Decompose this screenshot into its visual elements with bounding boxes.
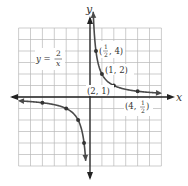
annotation-2-1: (2, 1): [86, 85, 114, 96]
data-point: [40, 101, 44, 105]
down-arrow-icon: [87, 172, 93, 180]
annotation-fraction-num: 1: [104, 43, 108, 50]
annotation-fraction-den: 2: [141, 107, 145, 114]
annotation-text: (: [99, 46, 102, 56]
data-point: [76, 118, 80, 122]
hyperbola-chart: x y y = 2 x ( 1 2 , 4) (1, 2) (2, 1) (4,…: [0, 0, 188, 186]
left-arrow-icon: [10, 94, 18, 100]
right-arrow-icon: [167, 94, 175, 100]
annotation-text: , 4): [109, 46, 123, 56]
annotation-fraction-den: 2: [104, 51, 108, 58]
annotation-text: (1, 2): [105, 65, 128, 75]
annotation-text: ): [146, 101, 149, 111]
y-axis: [87, 16, 93, 180]
y-axis-label: y: [85, 3, 93, 16]
data-point: [82, 141, 86, 145]
data-point: [136, 89, 140, 93]
equation-numerator: 2: [56, 49, 61, 58]
hyperbola-branch: [20, 101, 86, 161]
annotation-text: (4,: [125, 101, 136, 111]
x-axis-label: x: [176, 91, 183, 104]
data-point: [64, 107, 68, 111]
curve-arrow-icon: [82, 155, 88, 161]
data-point: [100, 72, 104, 76]
annotation-text: (2, 1): [87, 86, 110, 96]
annotation-half-4: ( 1 2 , 4): [98, 41, 125, 58]
equation-label: y = 2 x: [35, 48, 65, 70]
equation-lhs: y =: [35, 54, 51, 64]
annotation-1-2: (1, 2): [104, 64, 134, 75]
annotation-fraction-num: 1: [141, 99, 145, 106]
data-point: [94, 49, 98, 53]
annotation-4-half: (4, 1 2 ): [124, 99, 153, 116]
